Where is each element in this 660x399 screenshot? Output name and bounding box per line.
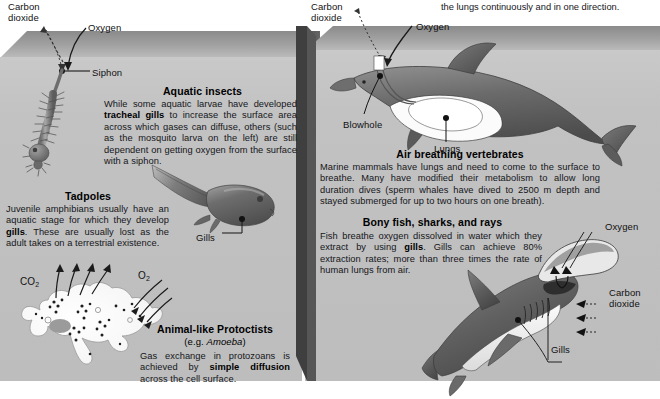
diagram-canvas: the lungs continuously and in one direct… bbox=[0, 0, 660, 399]
amoeba-o2-subscript: 2 bbox=[146, 275, 150, 282]
amoeba-eg-suffix: ) bbox=[242, 336, 245, 347]
paragraph-aquatic-insects: While some aquatic larvae have developed… bbox=[104, 99, 297, 167]
tadpole-gills-label: Gills bbox=[196, 233, 215, 244]
amoeba-eg-prefix: (e.g. bbox=[184, 336, 206, 347]
right-oxygen-label: Oxygen bbox=[416, 22, 449, 33]
siphon-label: Siphon bbox=[92, 68, 122, 79]
heading-animal-like-protoctists: Animal-like Protoctists bbox=[140, 323, 290, 335]
shark-gills-label: Gills bbox=[551, 345, 570, 356]
amoeba-o2-label: O2 bbox=[138, 271, 150, 285]
amoeba-o2-text: O bbox=[138, 270, 146, 281]
blowhole-label: Blowhole bbox=[343, 120, 382, 131]
heading-bony-fish-sharks-rays: Bony fish, sharks, and rays bbox=[320, 216, 545, 228]
amoeba-genus: Amoeba bbox=[207, 336, 243, 347]
shark-oxygen-label: Oxygen bbox=[605, 222, 638, 233]
amoeba-co2-text: CO bbox=[20, 276, 35, 287]
amoeba-co2-label: CO2 bbox=[20, 277, 39, 291]
right-carbon-dioxide-label: Carbon dioxide bbox=[311, 2, 343, 23]
heading-tadpoles: Tadpoles bbox=[8, 190, 168, 202]
top-continuation-note: the lungs continuously and in one direct… bbox=[441, 2, 619, 13]
left-oxygen-label: Oxygen bbox=[88, 23, 121, 34]
paragraph-tadpoles: Juvenile amphibians usually have an aqua… bbox=[6, 204, 169, 250]
subheading-amoeba-example: (e.g. Amoeba) bbox=[140, 336, 290, 347]
paragraph-bony-fish-sharks-rays: Fish breathe oxygen dissolved in water w… bbox=[320, 231, 542, 277]
shark-carbon-dioxide-label: Carbon dioxide bbox=[609, 288, 641, 309]
amoeba-co2-subscript: 2 bbox=[35, 281, 39, 288]
heading-air-breathing-vertebrates: Air breathing vertebrates bbox=[320, 148, 600, 160]
paragraph-air-breathing-vertebrates: Marine mammals have lungs and need to co… bbox=[320, 162, 600, 208]
left-carbon-dioxide-label: Carbon dioxide bbox=[8, 2, 40, 23]
heading-aquatic-insects: Aquatic insects bbox=[105, 85, 300, 97]
paragraph-animal-like-protoctists: Gas exchange in protozoans is achieved b… bbox=[140, 351, 290, 385]
